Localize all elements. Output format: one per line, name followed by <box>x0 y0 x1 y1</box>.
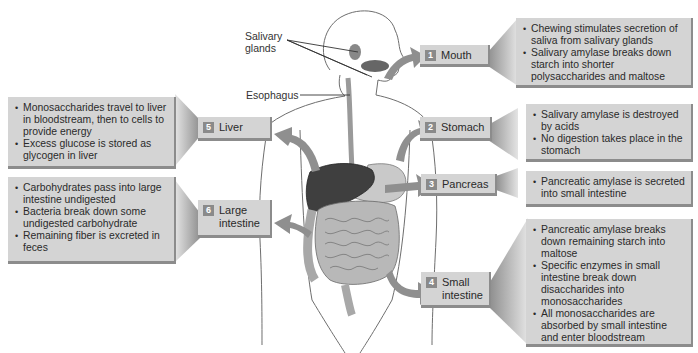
connector-pancreas <box>496 168 518 198</box>
info-box-mouth: Chewing stimulates secretion of saliva f… <box>516 18 693 88</box>
info-box-pancreas: Pancreatic amylase is secreted into smal… <box>526 171 693 207</box>
organ-label-liver: 5 Liver <box>198 117 272 141</box>
organ-name-stomach: Stomach <box>441 121 484 134</box>
fact-small-intestine-2: Specific enzymes in small intestine brea… <box>532 260 685 308</box>
fact-mouth-2: Salivary amylase breaks down starch into… <box>522 47 685 83</box>
arrow-to-liver <box>274 127 320 172</box>
fact-large-intestine-1: Carbohydrates pass into large intestine … <box>14 182 168 206</box>
info-box-stomach: Salivary amylase is destroyed by acids N… <box>526 104 693 162</box>
step-badge-1: 1 <box>425 50 436 61</box>
fact-small-intestine-1: Pancreatic amylase breaks down remaining… <box>532 224 685 260</box>
fact-stomach-1: Salivary amylase is destroyed by acids <box>532 109 685 133</box>
fact-pancreas-1: Pancreatic amylase is secreted into smal… <box>532 176 685 200</box>
connector-large-intestine <box>175 180 200 262</box>
info-box-large-intestine: Carbohydrates pass into large intestine … <box>8 177 176 264</box>
large-intestine-shape <box>307 210 315 280</box>
step-badge-3: 3 <box>426 179 437 190</box>
step-badge-4: 4 <box>426 277 437 288</box>
organ-label-mouth: 1 Mouth <box>420 45 490 67</box>
connector-small-intestine <box>490 218 528 345</box>
organ-label-large-intestine: 6 Large intestine <box>198 200 272 238</box>
fact-large-intestine-3: Remaining fiber is excreted in feces <box>14 230 168 254</box>
fact-small-intestine-3: All monosaccharides are absorbed by smal… <box>532 308 685 344</box>
organ-name-liver: Liver <box>219 121 243 134</box>
fact-stomach-2: No digestion takes place in the stomach <box>532 133 685 157</box>
organ-name-small-intestine: Small intestine <box>442 276 483 302</box>
organ-label-pancreas: 3 Pancreas <box>421 174 497 196</box>
fact-liver-2: Excess glucose is stored as glycogen in … <box>14 138 168 162</box>
connector-stomach <box>488 108 518 160</box>
info-box-small-intestine: Pancreatic amylase breaks down remaining… <box>526 219 693 347</box>
organ-label-stomach: 2 Stomach <box>420 117 492 141</box>
fact-liver-1: Monosaccharides travel to liver in blood… <box>14 102 168 138</box>
salivary-glands-label: Salivary glands <box>245 30 282 54</box>
organ-name-small-intestine-line1: Small <box>442 276 483 289</box>
connector-mouth <box>488 18 518 86</box>
organ-name-mouth: Mouth <box>441 49 472 62</box>
salivary-glands-label-line2: glands <box>245 42 282 54</box>
step-badge-6: 6 <box>203 205 214 216</box>
fact-large-intestine-2: Bacteria break down some undigested carb… <box>14 206 168 230</box>
organ-name-small-intestine-line2: intestine <box>442 289 483 302</box>
salivary-glands-label-line1: Salivary <box>245 30 282 42</box>
organ-name-large-intestine-line2: intestine <box>219 217 260 230</box>
step-badge-5: 5 <box>203 122 214 133</box>
organ-name-large-intestine-line1: Large <box>219 204 260 217</box>
esophagus-shape <box>348 78 352 170</box>
organ-name-pancreas: Pancreas <box>442 178 488 191</box>
info-box-liver: Monosaccharides travel to liver in blood… <box>8 97 176 169</box>
fact-mouth-1: Chewing stimulates secretion of saliva f… <box>522 23 685 47</box>
step-badge-2: 2 <box>425 122 436 133</box>
organ-label-small-intestine: 4 Small intestine <box>421 272 491 308</box>
connector-liver <box>175 94 200 166</box>
esophagus-label: Esophagus <box>246 89 299 101</box>
organ-name-large-intestine: Large intestine <box>219 204 260 230</box>
